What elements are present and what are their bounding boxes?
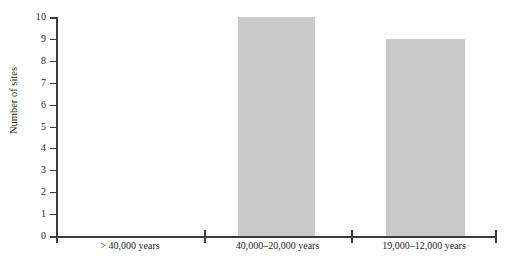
chart-figure: Number of sites 10 9 8 7 6 5 4 3 2 1 0 >… xyxy=(0,0,517,271)
bar-category-3 xyxy=(386,39,465,236)
x-axis-label-category-3: 19,000–12,000 years xyxy=(351,240,497,252)
x-axis-label-category-1: > 40,000 years xyxy=(56,240,204,252)
plot-area xyxy=(0,0,517,271)
x-axis-label-category-2: 40,000–20,000 years xyxy=(204,240,351,252)
x-axis-line xyxy=(56,236,497,238)
bar-category-2 xyxy=(238,17,315,236)
